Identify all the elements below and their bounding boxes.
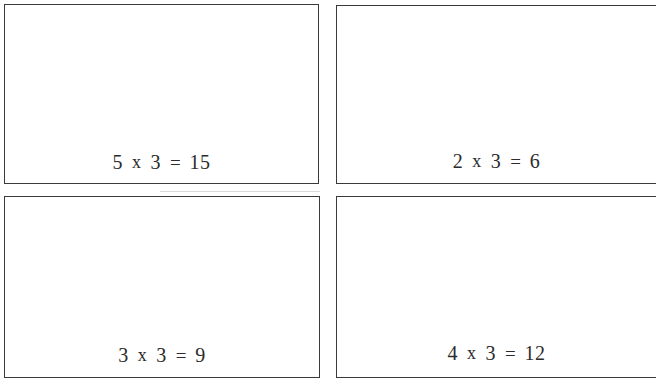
product-value: 15 bbox=[190, 151, 211, 173]
multiplier: 3 bbox=[491, 150, 502, 172]
equals-operator: = bbox=[170, 152, 181, 174]
equation-card-top-left[interactable]: 5 x 3 = 15 bbox=[4, 4, 319, 184]
product-value: 6 bbox=[530, 150, 541, 172]
equation-container: 5 x 3 = 15 bbox=[5, 151, 318, 174]
multiply-operator: x bbox=[472, 150, 482, 172]
scan-seam-artifact bbox=[160, 191, 320, 192]
equation-text: 5 x 3 = 15 bbox=[112, 151, 210, 174]
equation-text: 4 x 3 = 12 bbox=[447, 342, 545, 365]
multiply-operator: x bbox=[132, 151, 142, 173]
product-value: 9 bbox=[195, 344, 206, 366]
multiplier: 3 bbox=[485, 342, 496, 364]
multiplicand: 4 bbox=[447, 342, 458, 364]
multiply-operator: x bbox=[138, 344, 148, 366]
equals-operator: = bbox=[510, 151, 521, 173]
multiplicand: 5 bbox=[112, 151, 123, 173]
multiplicand: 2 bbox=[453, 150, 464, 172]
multiplicand: 3 bbox=[118, 344, 129, 366]
multiplier: 3 bbox=[156, 344, 167, 366]
equals-operator: = bbox=[505, 343, 516, 365]
multiplier: 3 bbox=[150, 151, 161, 173]
equation-container: 3 x 3 = 9 bbox=[5, 344, 319, 367]
equation-card-bottom-right[interactable]: 4 x 3 = 12 bbox=[336, 196, 656, 378]
equals-operator: = bbox=[176, 345, 187, 367]
product-value: 12 bbox=[525, 342, 546, 364]
equation-container: 2 x 3 = 6 bbox=[337, 150, 656, 173]
multiply-operator: x bbox=[467, 342, 477, 364]
equation-card-bottom-left[interactable]: 3 x 3 = 9 bbox=[4, 196, 320, 378]
equation-container: 4 x 3 = 12 bbox=[337, 342, 656, 365]
equation-text: 3 x 3 = 9 bbox=[118, 344, 206, 367]
equation-text: 2 x 3 = 6 bbox=[453, 150, 541, 173]
equation-card-top-right[interactable]: 2 x 3 = 6 bbox=[336, 5, 656, 184]
